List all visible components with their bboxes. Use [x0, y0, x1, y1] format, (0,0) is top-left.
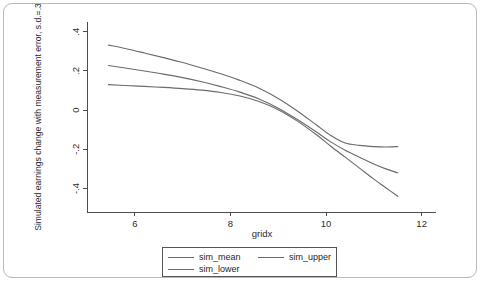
x-tick-label: 6 — [132, 218, 137, 229]
legend-row: sim_mean sim_upper — [168, 251, 331, 263]
y-tick-label: -.4 — [70, 183, 81, 194]
figure-card: .4.20-.2-.4 681012 gridx Simulated earni… — [3, 3, 477, 278]
legend-item-sim-upper: sim_upper — [258, 251, 331, 263]
series-line-sim-lower — [109, 85, 398, 197]
series-lines — [109, 45, 398, 196]
legend-item-sim-mean: sim_mean — [168, 251, 258, 263]
y-tick-label: -.2 — [70, 144, 81, 155]
plot-area: .4.20-.2-.4 681012 gridx Simulated earni… — [4, 4, 478, 279]
x-tick-label: 8 — [228, 218, 233, 229]
legend-swatch-sim-upper — [258, 257, 284, 258]
y-axis-ticks: .4.20-.2-.4 — [70, 28, 87, 194]
x-tick-label: 10 — [321, 218, 332, 229]
chart-legend: sim_mean sim_upper sim_lower — [162, 247, 337, 277]
x-tick-label: 12 — [416, 218, 427, 229]
legend-label-sim-mean: sim_mean — [199, 252, 241, 262]
y-tick-label: .4 — [70, 28, 81, 36]
legend-row: sim_lower — [168, 263, 331, 275]
x-axis-title: gridx — [252, 228, 273, 239]
series-line-sim-mean — [109, 65, 398, 172]
legend-item-sim-lower: sim_lower — [168, 263, 260, 275]
y-axis-title: Simulated earnings change with measureme… — [33, 4, 43, 231]
y-tick-label: 0 — [70, 107, 81, 112]
x-axis-ticks: 681012 — [132, 212, 427, 229]
axes — [87, 22, 436, 212]
legend-swatch-sim-mean — [168, 257, 194, 258]
y-tick-label: .2 — [70, 67, 81, 75]
line-chart: .4.20-.2-.4 681012 gridx Simulated earni… — [4, 4, 478, 279]
legend-swatch-sim-lower — [168, 269, 194, 270]
legend-label-sim-upper: sim_upper — [289, 252, 331, 262]
legend-label-sim-lower: sim_lower — [199, 264, 240, 274]
